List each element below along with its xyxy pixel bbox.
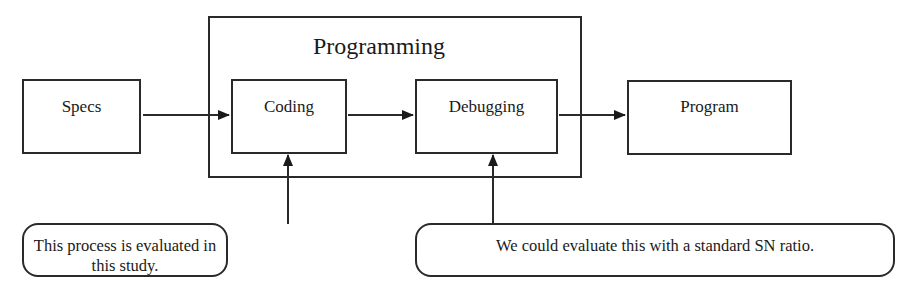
coding-label: Coding <box>233 97 345 117</box>
program-label: Program <box>629 97 790 117</box>
debugging-box: Debugging <box>415 79 558 154</box>
callout-coding-text: This process is evaluated in this study. <box>24 236 226 276</box>
callout-coding-note: This process is evaluated in this study. <box>22 223 228 277</box>
specs-box: Specs <box>22 79 141 154</box>
callout-debugging-note: We could evaluate this with a standard S… <box>415 223 895 277</box>
debugging-label: Debugging <box>417 97 556 117</box>
programming-title: Programming <box>313 33 445 60</box>
callout-debugging-text: We could evaluate this with a standard S… <box>417 236 893 256</box>
program-box: Program <box>627 80 792 155</box>
specs-label: Specs <box>24 97 139 117</box>
coding-box: Coding <box>231 79 347 154</box>
